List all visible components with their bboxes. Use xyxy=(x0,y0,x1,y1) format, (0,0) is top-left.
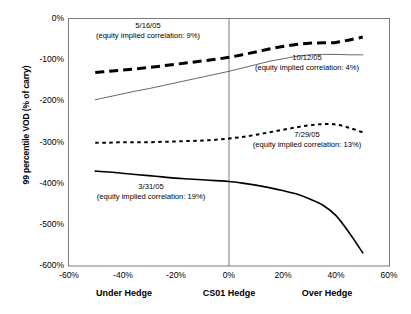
annotation-correlation: (equity implied correlation: 13%) xyxy=(227,140,387,150)
x-group-label-under-hedge: Under Hedge xyxy=(74,288,174,298)
chart-container: 99 percentile VOD (% of carry) 0% -100% … xyxy=(0,0,411,314)
x-tick-label: -20% xyxy=(156,270,196,280)
annotation-series-name: 3/31/05 xyxy=(71,182,231,192)
x-group-label-cs01-hedge: CS01 Hedge xyxy=(179,288,279,298)
annotation-series-name: 5/16/05 xyxy=(68,21,228,31)
annotation-3-31-05: 3/31/05 (equity implied correlation: 19%… xyxy=(71,182,231,202)
x-tick-label: 40% xyxy=(316,270,356,280)
annotation-5-16-05: 5/16/05 (equity implied correlation: 9%) xyxy=(68,21,228,41)
x-tick-label: 0% xyxy=(209,270,249,280)
annotation-correlation: (equity implied correlation: 9%) xyxy=(68,31,228,41)
x-tick-label: 60% xyxy=(369,270,409,280)
x-tick-label: 20% xyxy=(263,270,303,280)
annotation-7-29-05: 7/29/05 (equity implied correlation: 13%… xyxy=(227,130,387,150)
annotation-correlation: (equity implied correlation: 4%) xyxy=(227,63,387,73)
annotation-correlation: (equity implied correlation: 19%) xyxy=(71,192,231,202)
plot-svg xyxy=(0,0,411,314)
annotation-10-12-05: 10/12/05 (equity implied correlation: 4%… xyxy=(227,53,387,73)
annotation-series-name: 7/29/05 xyxy=(227,130,387,140)
x-tick-label: -60% xyxy=(49,270,89,280)
x-group-label-over-hedge: Over Hedge xyxy=(277,288,377,298)
annotation-series-name: 10/12/05 xyxy=(227,53,387,63)
x-tick-label: -40% xyxy=(103,270,143,280)
